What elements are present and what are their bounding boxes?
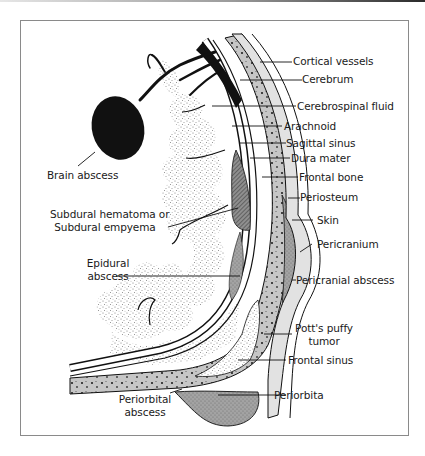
label-subdural-line1: Subdural hematoma or [50,208,160,221]
label-potts-line1: Pott's puffy [292,322,356,335]
label-periorbital-line2: abscess [112,406,178,419]
label-epidural-line1: Epidural [82,257,134,270]
label-epidural-line2: abscess [82,270,134,283]
label-sagittal-sinus: Sagittal sinus [286,137,355,150]
label-periorbita: Periorbita [274,389,324,402]
label-periorbital-abscess: Periorbital abscess [112,393,178,419]
label-subdural: Subdural hematoma or Subdural empyema [50,208,160,234]
label-epidural-abscess: Epidural abscess [82,257,134,283]
label-frontal-sinus: Frontal sinus [288,354,353,367]
label-skin: Skin [317,214,339,227]
label-dura-mater: Dura mater [291,152,350,165]
label-periosteum: Periosteum [300,191,358,204]
label-frontal-bone: Frontal bone [299,171,363,184]
epidural-abscess-region [229,232,243,300]
label-cerebrospinal-fluid: Cerebrospinal fluid [297,100,394,113]
label-cerebrum: Cerebrum [302,73,353,86]
label-potts-puffy-tumor: Pott's puffy tumor [292,322,356,348]
label-arachnoid: Arachnoid [284,120,336,133]
label-subdural-line2: Subdural empyema [50,221,160,234]
label-cortical-vessels: Cortical vessels [293,55,373,68]
label-pericranium: Pericranium [317,238,379,251]
label-pericranial-abscess: Pericranial abscess [296,274,394,287]
brain-abscess [85,90,152,165]
label-periorbital-line1: Periorbital [112,393,178,406]
label-potts-line2: tumor [292,335,356,348]
label-brain-abscess: Brain abscess [47,169,118,182]
periorbital-abscess [175,391,259,426]
